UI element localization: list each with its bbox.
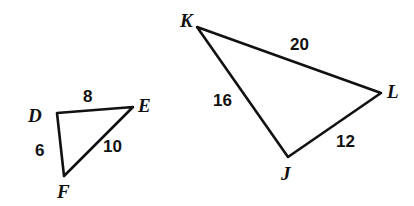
triangles-drawing [0, 0, 414, 206]
side-label-de: 8 [83, 88, 92, 105]
vertex-label-j: J [281, 164, 291, 183]
side-label-kl: 20 [290, 36, 309, 53]
side-label-jl: 12 [336, 133, 355, 150]
geometry-figure: D E F 8 6 10 K L J 20 16 12 [0, 0, 414, 206]
vertex-label-k: K [180, 11, 193, 30]
side-label-fe: 10 [103, 138, 122, 155]
side-label-df: 6 [35, 142, 44, 159]
vertex-label-l: L [387, 82, 399, 101]
vertex-label-e: E [138, 96, 151, 115]
vertex-label-d: D [28, 106, 42, 125]
side-label-kj: 16 [213, 92, 232, 109]
vertex-label-f: F [57, 182, 70, 201]
